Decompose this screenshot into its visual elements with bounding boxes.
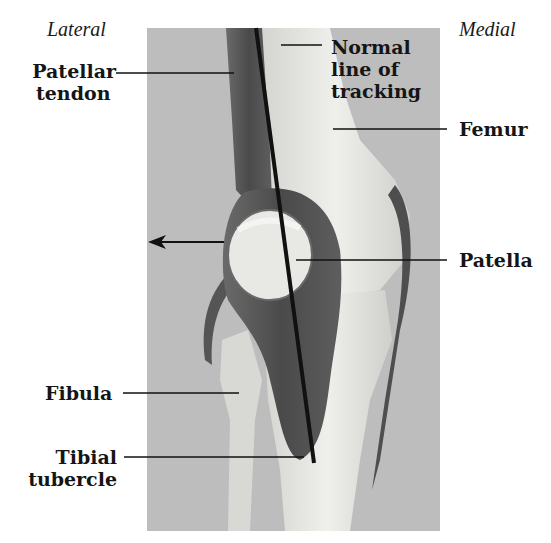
normal-line-label: Normal line of tracking (331, 36, 421, 102)
patellar-tendon-label: Patellar tendon (28, 60, 116, 104)
lateral-label: Lateral (47, 18, 106, 41)
medial-label: Medial (459, 18, 516, 41)
knee-anatomy-figure: Lateral Medial Patellar tendon Normal li… (0, 0, 551, 543)
fibula-label: Fibula (45, 382, 112, 404)
patella-bone (228, 210, 312, 300)
tibial-tubercle-label: Tibial tubercle (22, 446, 117, 490)
fibula-bone (220, 330, 262, 531)
lateral-arrow-icon (148, 235, 224, 249)
femur-label: Femur (459, 118, 527, 140)
patella-label: Patella (459, 249, 533, 271)
